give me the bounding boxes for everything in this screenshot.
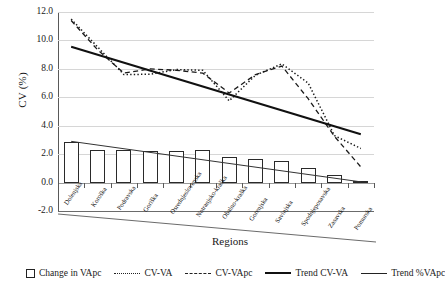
y-tick-label: 2.0 <box>19 149 53 159</box>
y-tick-label: 8.0 <box>19 64 53 74</box>
y-tick-label: 0.0 <box>19 178 53 188</box>
y-axis-title: CV (%) <box>16 50 28 130</box>
x-tick <box>321 183 322 188</box>
legend-marker-box-swatch-icon <box>26 269 35 278</box>
x-tick <box>374 183 375 188</box>
x-tick <box>111 183 112 188</box>
legend-label: CV-VA <box>144 268 172 278</box>
x-category-label: Pomurska <box>352 206 373 232</box>
y-tick-label: -2.0 <box>19 206 53 216</box>
x-axis-title: Regions <box>170 235 290 247</box>
x-tick <box>348 183 349 188</box>
legend-item: Change in VApc <box>26 268 101 278</box>
legend-marker-dotted-line-icon <box>114 273 140 274</box>
chart-legend: Change in VApcCV-VACV-VApcTrend CV-VATre… <box>26 262 436 284</box>
legend-marker-thick-solid-line-icon <box>265 272 291 274</box>
y-tick-label: 10.0 <box>19 35 53 45</box>
y-tick-label: 12.0 <box>19 7 53 17</box>
legend-item: Trend CV-VA <box>265 268 348 278</box>
x-tick <box>295 183 296 188</box>
x-tick <box>163 183 164 188</box>
legend-item: Trend %VApc <box>361 268 445 278</box>
legend-label: Change in VApc <box>39 268 101 278</box>
x-tick <box>137 183 138 188</box>
legend-label: Trend %VApc <box>391 268 445 278</box>
legend-marker-thin-solid-line-icon <box>361 273 387 274</box>
x-category-label: Gorenjska <box>247 196 268 222</box>
x-tick <box>84 183 85 188</box>
legend-item: CV-VA <box>114 268 172 278</box>
x-category-label: Goriška <box>141 192 159 213</box>
series-cv-vapc-dashed <box>71 21 361 167</box>
legend-item: CV-VApc <box>185 268 252 278</box>
x-tick <box>269 183 270 188</box>
legend-label: Trend CV-VA <box>295 268 348 278</box>
legend-marker-dashed-line-icon <box>185 273 211 274</box>
x-category-label: Zasavska <box>326 205 346 229</box>
x-category-label: Savinjska <box>273 199 293 224</box>
trend-line-pct-vapc <box>71 141 361 182</box>
trend-line-cv-va <box>71 47 361 134</box>
x-tick <box>58 183 59 188</box>
y-tick-label: 6.0 <box>19 92 53 102</box>
legend-label: CV-VApc <box>215 268 252 278</box>
y-tick-label: 4.0 <box>19 121 53 131</box>
